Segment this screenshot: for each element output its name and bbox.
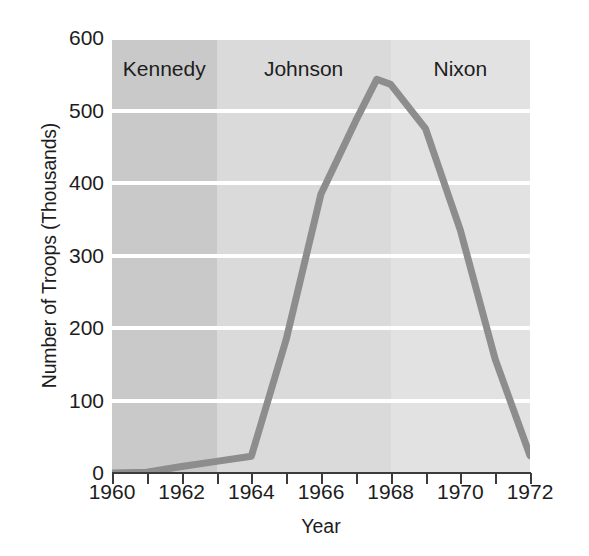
x-tick-label-1962: 1962 bbox=[142, 480, 222, 504]
y-tick-label-300: 300 bbox=[34, 245, 104, 266]
y-axis-ticks: 0100200300400500600 bbox=[0, 0, 589, 556]
era-label-kennedy: Kennedy bbox=[123, 57, 206, 81]
era-label-nixon: Nixon bbox=[433, 57, 487, 81]
x-tick-label-1960: 1960 bbox=[72, 480, 152, 504]
x-tick-label-1970: 1970 bbox=[420, 480, 500, 504]
x-tick-label-1968: 1968 bbox=[351, 480, 431, 504]
y-tick-label-600: 600 bbox=[34, 27, 104, 48]
troop-levels-line-chart: Number of Troops (Thousands) Year 010020… bbox=[0, 0, 589, 556]
x-tick-label-1966: 1966 bbox=[281, 480, 361, 504]
y-tick-label-400: 400 bbox=[34, 172, 104, 193]
y-tick-label-500: 500 bbox=[34, 100, 104, 121]
x-tick-label-1972: 1972 bbox=[490, 480, 570, 504]
y-tick-label-200: 200 bbox=[34, 317, 104, 338]
y-tick-label-100: 100 bbox=[34, 390, 104, 411]
x-tick-label-1964: 1964 bbox=[211, 480, 291, 504]
era-label-johnson: Johnson bbox=[264, 57, 343, 81]
